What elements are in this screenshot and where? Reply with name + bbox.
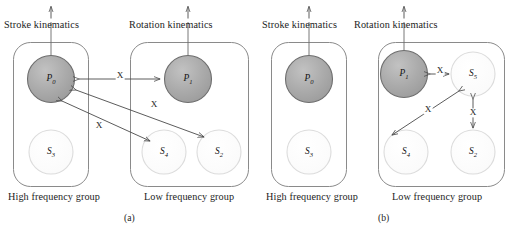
panel-b-rotation-kinematics-label: Rotation kinematics xyxy=(354,19,438,30)
panel-b-edge-p1-s5-label: X xyxy=(436,66,445,75)
panel-b-node-p1[interactable] xyxy=(381,51,428,98)
panel-a-stroke-kinematics-label: Stroke kinematics xyxy=(4,19,79,30)
panel-b-stroke-kinematics-label: Stroke kinematics xyxy=(262,19,337,30)
panel-b-node-s5[interactable] xyxy=(451,52,495,96)
panel-a-edge-p0-s2-label: X xyxy=(150,100,159,109)
panel-b-edge-s5-s2-label: X xyxy=(469,108,478,117)
panel-a-caption: (a) xyxy=(124,212,135,223)
figure-root: Stroke kinematics Rotation kinematics P0… xyxy=(0,0,518,236)
panel-a-node-s3[interactable] xyxy=(29,130,73,174)
panel-b-node-s3[interactable] xyxy=(287,130,331,174)
panel-a-low-frequency-group-label: Low frequency group xyxy=(144,191,234,202)
panel-a-edge-p0-s4 xyxy=(62,101,150,141)
panel-b-node-s2[interactable] xyxy=(451,130,495,174)
panel-b xyxy=(272,7,505,187)
panel-a-node-s4[interactable] xyxy=(142,130,186,174)
panel-a-node-p1[interactable] xyxy=(165,56,212,103)
panel-b-high-frequency-group-label: High frequency group xyxy=(266,191,358,202)
panel-a-node-p0[interactable] xyxy=(28,56,75,103)
panel-a-edge-p0-p1-label: X xyxy=(116,71,125,80)
panel-b-node-p0[interactable] xyxy=(286,56,333,103)
panel-a-edge-p0-s4-label: X xyxy=(95,121,104,130)
panel-b-node-s4[interactable] xyxy=(384,130,428,174)
panel-a-rotation-kinematics-label: Rotation kinematics xyxy=(129,19,213,30)
panel-b-caption: (b) xyxy=(378,212,389,223)
panel-a xyxy=(14,7,249,187)
panel-b-edge-s5-s4-label: X xyxy=(424,105,433,114)
panel-a-high-frequency-group-label: High frequency group xyxy=(8,191,100,202)
panel-b-low-frequency-group-label: Low frequency group xyxy=(392,191,482,202)
